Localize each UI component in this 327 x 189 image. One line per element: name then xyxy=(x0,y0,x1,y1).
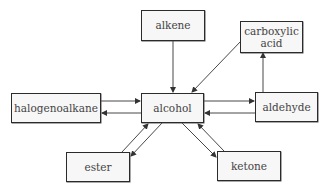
arrow-alcohol-to-ester xyxy=(131,123,162,156)
node-label: alcohol xyxy=(153,102,191,114)
arrow-ketone-to-alcohol xyxy=(198,124,224,151)
node-halogenoalkane: halogenoalkane xyxy=(11,93,101,123)
arrow-carboxylic-acid-to-alcohol xyxy=(192,41,241,92)
node-label: aldehyde xyxy=(262,101,310,113)
reaction-diagram: alkene carboxylic acid halogenoalkane al… xyxy=(0,0,327,189)
node-alcohol: alcohol xyxy=(141,93,204,123)
node-label: alkene xyxy=(155,19,190,31)
node-label: ester xyxy=(84,161,111,173)
node-ester: ester xyxy=(66,152,130,182)
node-label: ketone xyxy=(231,160,267,172)
node-label: halogenoalkane xyxy=(14,102,98,114)
arrow-alcohol-to-ketone xyxy=(182,123,216,157)
node-alkene: alkene xyxy=(141,10,205,41)
node-label: carboxylic acid xyxy=(244,25,299,49)
arrow-ester-to-alcohol xyxy=(122,124,148,152)
node-carboxylic-acid: carboxylic acid xyxy=(240,21,303,53)
node-ketone: ketone xyxy=(217,151,281,181)
node-aldehyde: aldehyde xyxy=(255,92,318,122)
